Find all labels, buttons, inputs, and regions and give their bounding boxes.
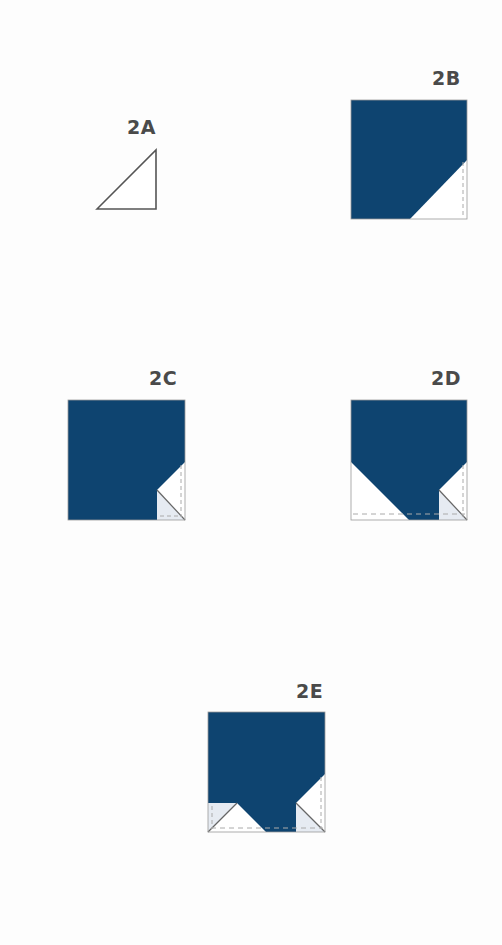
block-2b-diagram [0, 0, 502, 945]
step-label-2b: 2B [432, 67, 461, 89]
triangle-2a-icon [0, 0, 502, 945]
step-label-2a: 2A [127, 116, 156, 138]
block-2c-diagram [0, 0, 502, 945]
step-label-2e: 2E [296, 680, 323, 702]
step-label-2d: 2D [431, 367, 461, 389]
block-2d-diagram [0, 0, 502, 945]
block-2e-diagram [0, 0, 502, 945]
step-label-2c: 2C [149, 367, 177, 389]
